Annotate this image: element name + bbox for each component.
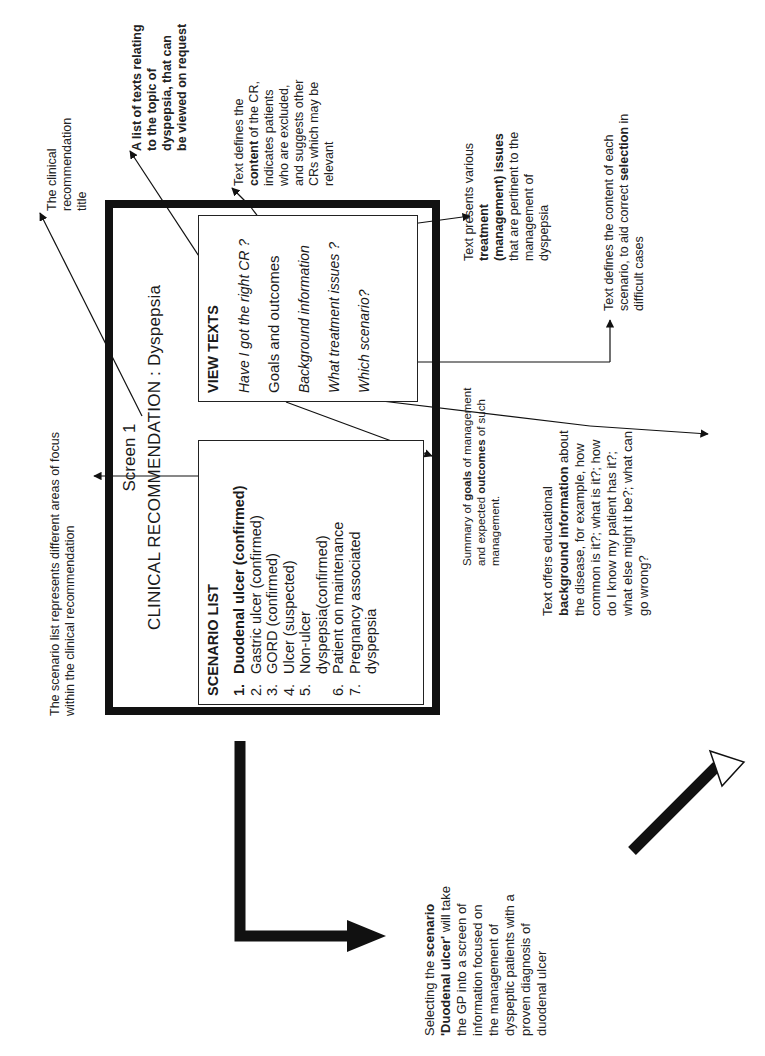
scenario-item-duodenal-ulcer[interactable]: 1.Duodenal ulcer (confirmed)	[231, 449, 248, 696]
scenario-item-maintenance[interactable]: 6.Patient on maintenance	[330, 449, 347, 696]
content-note: Text defines the content of the CR, indi…	[232, 71, 337, 186]
view-text-goals[interactable]: Goals and outcomes	[259, 224, 289, 393]
scenario-list-panel: SCENARIO LIST 1.Duodenal ulcer (confirme…	[198, 440, 424, 705]
view-text-background[interactable]: Background information	[289, 224, 319, 393]
scenario-item-ulcer-suspected[interactable]: 4.Ulcer (suspected)	[281, 449, 298, 696]
diagram-canvas: Screen 1 CLINICAL RECOMMENDATION : Dyspe…	[0, 0, 765, 1056]
view-text-which-scenario[interactable]: Which scenario?	[349, 224, 379, 393]
scenario-item-pregnancy[interactable]: 7.Pregnancy associated dyspepsia	[347, 449, 380, 696]
view-text-treatment[interactable]: What treatment issues ?	[319, 224, 349, 393]
treatment-note: Text presents various treatment (managem…	[462, 121, 552, 261]
screen-label: Screen 1	[120, 200, 140, 715]
diagonal-arrow-icon	[632, 850, 633, 851]
background-note: Text offers educational background infor…	[540, 426, 652, 616]
selecting-note: Selecting the scenario 'Duodenal ulcer' …	[422, 886, 550, 1036]
view-texts-heading: VIEW TEXTS	[205, 224, 221, 393]
scenario-item-gord[interactable]: 3.GORD (confirmed)	[264, 449, 281, 696]
goals-note: Summary of goals of management and expec…	[460, 386, 502, 566]
view-texts-panel: VIEW TEXTS Have I got the right CR ? Goa…	[198, 215, 418, 402]
view-texts-note: A list of texts relating to the topic of…	[130, 21, 190, 151]
scenario-list-note: The scenario list represents different a…	[48, 426, 78, 716]
l-shaped-arrow-icon	[235, 945, 236, 946]
title-note: The clinical recommendation title	[45, 121, 90, 211]
page-title: CLINICAL RECOMMENDATION : Dyspepsia	[145, 200, 165, 715]
view-text-right-cr[interactable]: Have I got the right CR ?	[229, 224, 259, 393]
scenario-list-heading: SCENARIO LIST	[205, 449, 221, 696]
scenario-selection-note: Text defines the content of each scenari…	[602, 101, 647, 311]
scenario-item-gastric-ulcer[interactable]: 2.Gastric ulcer (confirmed)	[248, 449, 265, 696]
scenario-item-non-ulcer-dyspepsia[interactable]: 5.Non-ulcer dyspepsia(confirmed)	[297, 449, 330, 696]
